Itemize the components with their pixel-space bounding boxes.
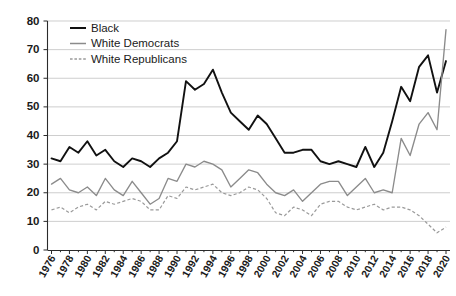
x-axis-tick-label: 2008	[323, 253, 345, 279]
x-axis-tick-label: 1998	[233, 253, 255, 279]
y-axis-tick-label: 40	[27, 129, 40, 141]
x-axis-tick-label: 1986	[125, 253, 147, 279]
series-line-black	[52, 55, 447, 167]
y-axis-tick-label: 70	[27, 43, 40, 55]
x-axis-tick-label: 1996	[215, 253, 237, 279]
line-chart: 01020304050607080 1976197819801982198419…	[0, 0, 456, 296]
x-axis-tick-label: 1976	[36, 253, 58, 279]
x-axis-tick-label: 2006	[305, 253, 327, 279]
y-axis-tick-label: 30	[27, 158, 40, 170]
x-axis-tick-label: 1994	[197, 253, 219, 279]
legend-label-2: White Republicans	[91, 53, 187, 65]
y-axis-tick-label: 0	[33, 244, 39, 256]
y-axis-tick-label: 10	[27, 215, 40, 227]
legend-label-0: Black	[91, 22, 119, 34]
x-axis-tick-label: 2018	[412, 253, 434, 279]
y-axis-tick-label: 60	[27, 72, 40, 84]
x-axis-tick-label: 2012	[358, 253, 380, 279]
x-axis-tick-label: 1988	[143, 253, 165, 279]
x-axis-tick-label: 2002	[269, 253, 291, 279]
x-axis-tick-label: 2014	[376, 253, 398, 279]
x-axis-tick-label: 1984	[107, 253, 129, 279]
x-axis-tick-label: 1978	[54, 253, 76, 279]
x-axis-tick-label: 2004	[287, 253, 309, 279]
x-axis-tick-label: 1982	[89, 253, 111, 279]
y-axis-tick-label: 50	[27, 100, 40, 112]
x-axis-tick-label: 2000	[251, 253, 273, 279]
x-axis-tick-label: 1992	[179, 253, 201, 279]
chart-legend: BlackWhite DemocratsWhite Republicans	[70, 22, 187, 65]
x-axis-tick-label: 1990	[161, 253, 183, 279]
x-axis-tick-labels: 1976197819801982198419861988199019921994…	[36, 253, 453, 279]
y-axis-tick-label: 20	[27, 186, 40, 198]
x-axis-tick-label: 1980	[72, 253, 94, 279]
chart-svg: 01020304050607080 1976197819801982198419…	[0, 0, 456, 296]
x-axis-tick-label: 2020	[430, 253, 452, 279]
legend-label-1: White Democrats	[91, 37, 179, 49]
y-axis-tick-labels: 01020304050607080	[27, 15, 40, 256]
x-axis-tick-label: 2016	[394, 253, 416, 279]
y-axis-tick-label: 80	[27, 15, 40, 27]
x-axis-tick-label: 2010	[341, 253, 363, 279]
y-axis-ticks	[44, 21, 48, 250]
